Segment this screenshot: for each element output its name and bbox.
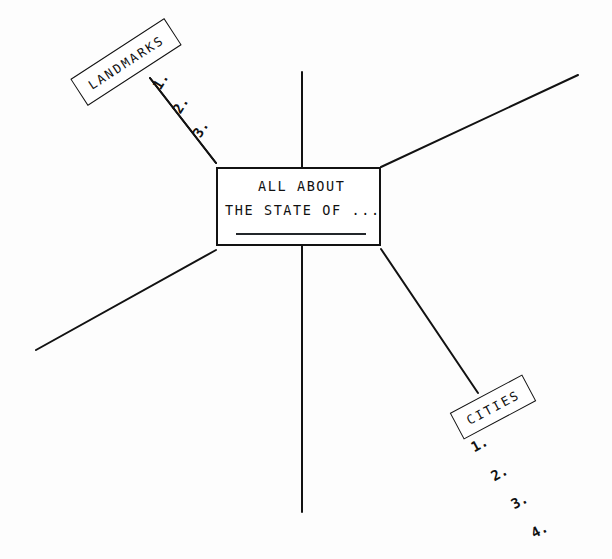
branch-line-cities: [381, 249, 478, 393]
landmarks-item-1[interactable]: 1.: [149, 69, 172, 92]
branch-label-cities-text: CITIES: [464, 387, 523, 428]
landmarks-item-3[interactable]: 3.: [189, 117, 212, 140]
branch-label-landmarks[interactable]: LANDMARKS: [70, 18, 181, 106]
center-underline-rule: [236, 233, 366, 235]
cities-item-1[interactable]: 1.: [468, 433, 490, 455]
mind-map-canvas: ALL ABOUT THE STATE OF ... LANDMARKS 1. …: [0, 0, 612, 559]
center-title-line-2: THE STATE OF ...: [225, 202, 381, 218]
branch-line-lower-left: [36, 250, 216, 350]
cities-item-3[interactable]: 3.: [508, 490, 530, 512]
branch-label-cities[interactable]: CITIES: [450, 375, 536, 440]
center-title-line-1: ALL ABOUT: [258, 178, 346, 194]
branch-line-upper-right: [381, 75, 578, 167]
landmarks-item-2[interactable]: 2.: [169, 93, 192, 116]
cities-item-4[interactable]: 4.: [528, 519, 550, 541]
cities-item-2[interactable]: 2.: [488, 462, 510, 484]
center-topic-box[interactable]: ALL ABOUT THE STATE OF ...: [216, 167, 381, 246]
